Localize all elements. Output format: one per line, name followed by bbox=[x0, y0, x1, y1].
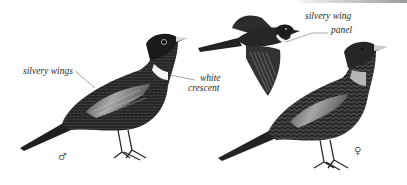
female-symbol: ♀ bbox=[354, 146, 361, 156]
male-symbol: ♂ bbox=[58, 152, 67, 162]
white-crescent-leader bbox=[170, 75, 195, 80]
silvery-wings-leader bbox=[75, 71, 95, 88]
wing-panel-leader bbox=[286, 33, 328, 42]
female-bird bbox=[218, 42, 388, 170]
male-bird bbox=[20, 34, 188, 160]
label-white-crescent-line1: white bbox=[200, 73, 221, 83]
label-silvery-wings: silvery wings bbox=[23, 66, 73, 76]
label-white-crescent-line2: crescent bbox=[188, 83, 219, 93]
label-silvery-wing-panel-line2: panel bbox=[331, 25, 352, 35]
illustration-canvas: silvery wings white crescent silvery win… bbox=[0, 0, 407, 185]
label-silvery-wing-panel-line1: silvery wing bbox=[305, 11, 351, 21]
